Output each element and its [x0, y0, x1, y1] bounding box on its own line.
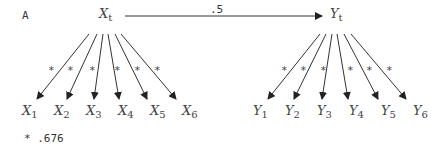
loading-star: *: [281, 64, 288, 77]
loading-star: *: [114, 64, 121, 77]
loading-star: *: [89, 64, 96, 77]
indicator-y4: Y4: [349, 103, 364, 120]
loading-star: *: [134, 64, 141, 77]
loading-star: *: [320, 64, 327, 77]
path-coefficient: .5: [210, 3, 223, 16]
loading-star: *: [366, 64, 373, 77]
indicator-x6: X6: [182, 103, 198, 120]
panel-label: A: [22, 9, 29, 22]
indicator-y3: Y3: [317, 103, 332, 120]
indicator-x4: X4: [118, 103, 134, 120]
loading-star: *: [386, 64, 393, 77]
indicator-y5: Y5: [381, 103, 396, 120]
loading-star: *: [154, 64, 161, 77]
indicator-x2: X2: [54, 103, 70, 120]
loading-star: *: [48, 64, 55, 77]
indicator-x1: X1: [22, 103, 38, 120]
indicator-x5: X5: [150, 103, 166, 120]
latent-y-label: Yt: [330, 6, 343, 23]
footnote: * .676: [24, 132, 64, 145]
indicator-x3: X3: [86, 103, 102, 120]
loading-star: *: [67, 64, 74, 77]
indicator-y2: Y2: [285, 103, 300, 120]
indicator-y6: Y6: [413, 103, 428, 120]
latent-x-label: Xt: [99, 6, 112, 23]
loading-star: *: [347, 64, 354, 77]
loading-star: *: [300, 64, 307, 77]
indicator-y1: Y1: [253, 103, 268, 120]
